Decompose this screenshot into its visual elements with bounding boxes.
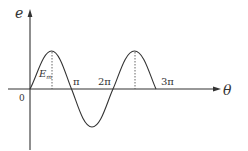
origin-label: 0 (19, 93, 25, 103)
y-axis-label: e (15, 5, 23, 21)
x-axis-label: θ (223, 82, 232, 98)
amplitude-label-subscript: m (46, 73, 52, 80)
emf-waveform-diagram: e θ 0 π 2π 3π Em (0, 0, 248, 151)
amplitude-label: Em (38, 68, 52, 80)
y-axis-arrow-icon (28, 9, 33, 17)
x-axis-arrow-icon (213, 87, 221, 92)
tick-label-pi: π (73, 76, 80, 87)
tick-label-3pi: 3π (161, 76, 174, 87)
tick-label-2pi: 2π (98, 76, 111, 87)
